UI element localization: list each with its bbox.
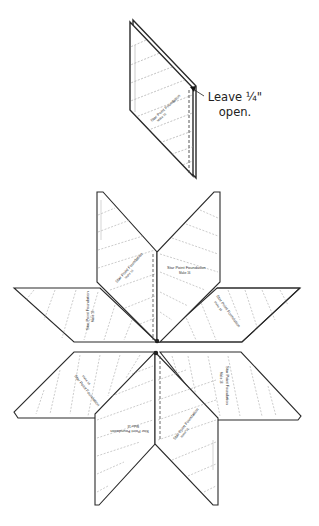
top-star-point-piece: Star Point Foundation Make 16 (128, 20, 204, 178)
callout-line-1: Leave ¼" (205, 90, 265, 105)
star-point-sublabel: Make 16 (179, 271, 191, 275)
star-point-sublabel: Make 16 (219, 372, 223, 384)
star-point-label: Star Point Foundation (110, 429, 149, 434)
leave-quarter-inch-open-callout: Leave ¼" open. (205, 90, 265, 120)
callout-line-2: open. (205, 105, 265, 120)
star-point-sublabel: Make 16 (127, 424, 139, 428)
star-point-label: Star Point Foundation (85, 291, 90, 330)
star-assembly: Star Point Foundation Make 16 Star Point… (14, 192, 302, 505)
star-point-label: Star Point Foundation (167, 265, 206, 270)
center-point-upper-icon (155, 339, 159, 343)
center-point-lower-icon (154, 351, 158, 355)
star-point-sublabel: Make 16 (91, 310, 95, 322)
star-point-label: Star Point Foundation (225, 366, 230, 405)
diagram-canvas: Star Point Foundation Make 16 Star Point… (0, 0, 319, 526)
